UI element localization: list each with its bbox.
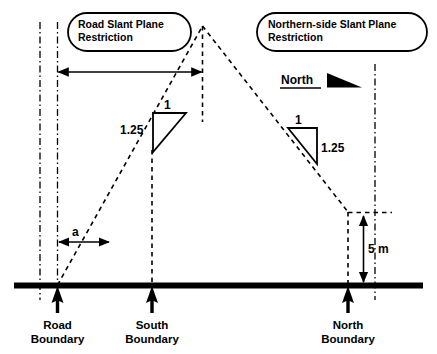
callout-northern-side-slant-plane-line2: Restriction [268,31,323,43]
road-slope-run-label: 1.25 [120,123,144,137]
callout-northern-side-slant-plane: Northern-side Slant Plane Restriction [257,13,427,51]
south-boundary-label-line2: Boundary [125,333,179,345]
south-boundary-marker: South Boundary [125,286,179,345]
road-boundary-label-line1: Road [43,319,72,331]
north-boundary-label-line1: North [333,319,364,331]
road-boundary-label-line2: Boundary [31,333,85,345]
northern-slope-rise-label: 1 [295,113,302,127]
north-indicator: North [280,73,362,88]
road-slant-plane-line [58,26,203,285]
diagram-canvas: a 5 m 1 1.25 1 1.25 Road Slant Plane Res… [0,0,437,354]
northern-slant-plane-line [203,26,349,212]
northern-slope-triangle [288,128,317,164]
callout-northern-side-slant-plane-line1: Northern-side Slant Plane [268,18,397,30]
height-5m-label: 5 m [368,242,389,256]
callout-road-slant-plane: Road Slant Plane Restriction [68,13,191,51]
setback-a-label: a [72,225,79,239]
north-label: North [281,73,313,87]
south-boundary-label-line1: South [136,319,169,331]
north-boundary-label-line2: Boundary [321,333,375,345]
callout-road-slant-plane-line1: Road Slant Plane [78,18,164,30]
callout-road-slant-plane-line2: Restriction [78,31,133,43]
road-slope-triangle [153,113,186,152]
north-boundary-marker: North Boundary [321,286,375,345]
slant-plane-diagram: a 5 m 1 1.25 1 1.25 Road Slant Plane Res… [0,0,437,354]
road-slope-rise-label: 1 [164,98,171,112]
northern-slope-run-label: 1.25 [321,141,345,155]
road-boundary-marker: Road Boundary [31,286,85,345]
north-arrow-icon [327,73,362,88]
